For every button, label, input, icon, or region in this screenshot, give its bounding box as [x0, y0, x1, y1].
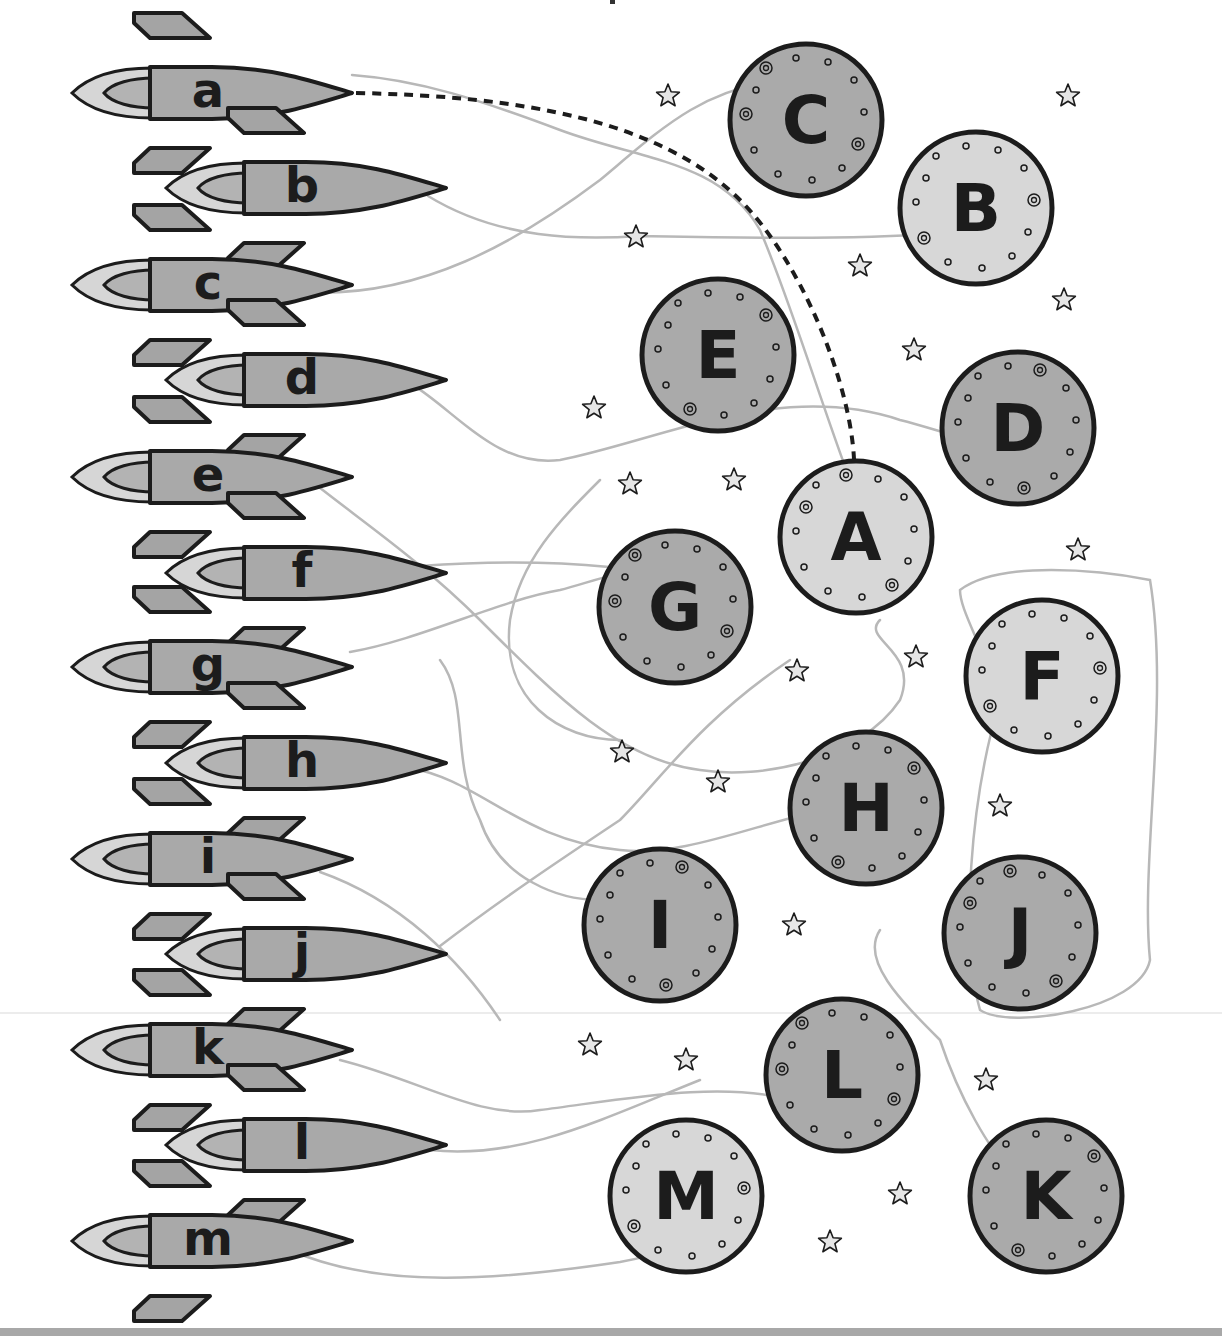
star-icon: [675, 1048, 698, 1070]
star-icon: [1057, 84, 1080, 106]
star-icon: [619, 472, 642, 494]
rocket-body: [244, 737, 446, 789]
star-icon: [723, 468, 746, 490]
planet-K: K: [970, 1120, 1122, 1272]
letter-matching-worksheet: CBEDAGFHIJLMK abcdefghijklm: [0, 0, 1222, 1342]
planets: CBEDAGFHIJLMK: [584, 44, 1122, 1272]
rocket-j: j: [166, 874, 446, 1034]
star-icon: [889, 1182, 912, 1204]
rocket-letter: k: [192, 1019, 225, 1075]
planet-letter: A: [830, 499, 881, 576]
star-icon: [583, 396, 606, 418]
rocket-body: [244, 547, 446, 599]
star-icon: [579, 1033, 602, 1055]
rocket-fin-top: [134, 13, 210, 38]
rocket-m: m: [72, 1161, 352, 1321]
star-icon: [903, 338, 926, 360]
star-icon: [975, 1068, 998, 1090]
planet-letter: H: [838, 770, 893, 847]
rocket-letter: j: [292, 923, 310, 979]
rocket-g: g: [72, 587, 352, 747]
planet-A: A: [780, 461, 932, 613]
planet-G: G: [599, 531, 751, 683]
rocket-b: b: [166, 108, 446, 268]
rocket-letter: a: [192, 62, 224, 118]
planet-letter: L: [821, 1037, 863, 1114]
rocket-fin-bottom: [134, 1296, 210, 1321]
rocket-letter: e: [192, 446, 225, 502]
rocket-c: c: [72, 205, 352, 365]
planet-letter: G: [648, 569, 702, 646]
rocket-body: [244, 354, 446, 406]
rocket-letter: h: [285, 732, 319, 788]
planet-letter: C: [782, 82, 830, 159]
star-icon: [1053, 288, 1076, 310]
planet-letter: I: [648, 887, 673, 964]
planet-letter: J: [1004, 895, 1033, 972]
rocket-e: e: [72, 397, 352, 557]
star-icon: [783, 913, 806, 935]
planet-I: I: [584, 849, 736, 1001]
star-icon: [1067, 538, 1090, 560]
rocket-fin-top: [228, 493, 304, 518]
planet-F: F: [966, 600, 1118, 752]
pencil-line: [440, 660, 600, 900]
planet-D: D: [942, 352, 1094, 504]
planet-M: M: [610, 1120, 762, 1272]
rocket-f: f: [166, 493, 446, 653]
rocket-letter: g: [191, 636, 225, 692]
star-icon: [989, 794, 1012, 816]
rocket-fin-top: [134, 205, 210, 230]
planet-E: E: [642, 279, 794, 431]
planet-letter: K: [1020, 1158, 1074, 1235]
rocket-i: i: [72, 779, 352, 939]
planet-J: J: [944, 857, 1096, 1009]
rocket-fin-top: [134, 397, 210, 422]
rocket-letter: c: [194, 254, 222, 310]
rocket-letter: f: [292, 542, 314, 598]
rocket-letter: i: [200, 828, 216, 884]
planet-C: C: [730, 44, 882, 196]
planet-H: H: [790, 732, 942, 884]
rockets: abcdefghijklm: [72, 13, 446, 1321]
star-icon: [625, 225, 648, 247]
star-icon: [786, 659, 809, 681]
star-icon: [849, 254, 872, 276]
planet-letter: M: [653, 1158, 719, 1235]
planet-L: L: [766, 999, 918, 1151]
planet-B: B: [900, 132, 1052, 284]
rocket-h: h: [166, 683, 446, 843]
planet-letter: E: [695, 317, 740, 394]
rocket-k: k: [72, 970, 352, 1130]
rocket-letter: d: [285, 349, 319, 405]
rocket-letter: l: [294, 1114, 310, 1170]
rocket-fin-top: [228, 683, 304, 708]
planet-letter: F: [1019, 638, 1064, 715]
star-icon: [611, 740, 634, 762]
star-icon: [905, 645, 928, 667]
bottom-page-rule: [0, 1328, 1222, 1336]
rocket-body: [244, 1119, 446, 1171]
rocket-body: [244, 162, 446, 214]
pencil-line: [340, 1060, 790, 1112]
star-icon: [819, 1230, 842, 1252]
rocket-d: d: [166, 300, 446, 460]
rocket-l: l: [166, 1065, 446, 1225]
rocket-letter: m: [183, 1210, 233, 1266]
planet-letter: B: [951, 170, 1001, 247]
planet-letter: D: [991, 390, 1046, 467]
rocket-body: [150, 1215, 352, 1267]
rocket-body: [244, 928, 446, 980]
star-icon: [657, 84, 680, 106]
pencil-line: [428, 196, 960, 238]
rocket-letter: b: [285, 157, 319, 213]
rocket-a: a: [72, 13, 352, 173]
